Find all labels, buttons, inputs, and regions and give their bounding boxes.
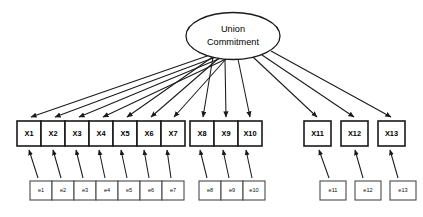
indicator-label-x4: X4	[96, 129, 106, 138]
indicator-label-x2: X2	[48, 129, 57, 138]
error-label-e8: e8	[207, 187, 213, 193]
loading-arrow-x9	[225, 59, 226, 117]
error-label-e2: e2	[60, 187, 66, 193]
loading-arrow-x10	[238, 59, 250, 117]
loading-arrow-x3	[79, 58, 221, 117]
error-arrow-e6	[144, 150, 149, 178]
latent-variable-union-commitment[interactable]: Union Commitment	[186, 13, 280, 60]
indicator-label-x5: X5	[120, 129, 129, 138]
error-label-e13: e13	[398, 187, 407, 193]
error-label-e5: e5	[126, 187, 132, 193]
indicator-group-1: X1 X2 X3 X4 X5 X6 X7	[17, 121, 185, 146]
factor-loading-arrows	[31, 51, 391, 117]
error-group-1: e1 e2 e3 e4 e5 e6 e7	[30, 181, 184, 200]
loading-arrow-x2	[55, 57, 216, 117]
latent-label-line1: Union	[221, 24, 245, 34]
error-label-e9: e9	[229, 187, 235, 193]
error-group-3: e11 e12 e13	[320, 181, 416, 200]
indicator-label-x1: X1	[24, 129, 33, 138]
indicator-label-x3: X3	[72, 129, 81, 138]
indicator-label-x10: X10	[243, 129, 256, 138]
loading-arrow-x13	[271, 51, 391, 117]
error-arrow-e11	[319, 150, 329, 178]
latent-label-line2: Commitment	[207, 37, 260, 47]
error-arrow-e2	[53, 150, 61, 178]
indicator-label-x8: X8	[197, 129, 206, 138]
error-arrow-e13	[390, 150, 398, 178]
indicator-label-x13: X13	[385, 129, 398, 138]
error-label-e1: e1	[38, 187, 44, 193]
loading-arrow-x8	[203, 57, 213, 117]
error-label-e11: e11	[329, 187, 338, 193]
indicator-label-x6: X6	[144, 129, 153, 138]
indicator-label-x11: X11	[311, 129, 324, 138]
error-arrow-e8	[200, 150, 207, 178]
indicator-label-x12: X12	[348, 129, 361, 138]
error-label-e6: e6	[148, 187, 154, 193]
indicator-label-x7: X7	[168, 129, 177, 138]
loading-arrow-x6	[151, 58, 219, 117]
sem-path-diagram: Union Commitment X1 X2 X3 X4 X5 X6 X7 X8…	[0, 0, 423, 217]
indicator-label-x9: X9	[221, 129, 230, 138]
latent-ellipse[interactable]	[186, 13, 280, 60]
error-label-e12: e12	[363, 187, 372, 193]
error-arrow-e10	[246, 150, 252, 178]
error-arrow-e9	[223, 150, 229, 178]
error-label-e4: e4	[104, 187, 110, 193]
error-label-e10: e10	[249, 187, 258, 193]
error-arrows	[29, 150, 398, 178]
loading-arrow-x7	[174, 59, 226, 117]
error-arrow-e5	[121, 150, 127, 178]
indicator-group-3: X11 X12 X13	[304, 121, 405, 146]
loading-arrow-x1	[31, 55, 210, 117]
error-group-2: e8 e9 e10	[199, 181, 265, 200]
loading-arrow-x12	[262, 55, 354, 117]
error-arrow-e12	[355, 150, 363, 178]
error-arrow-e1	[29, 150, 38, 178]
error-arrow-e7	[167, 150, 171, 178]
error-label-e3: e3	[82, 187, 88, 193]
loading-arrow-x11	[253, 57, 317, 117]
error-arrow-e4	[99, 150, 105, 178]
indicator-group-2: X8 X9 X10	[190, 121, 262, 146]
error-label-e7: e7	[170, 187, 176, 193]
error-arrow-e3	[76, 150, 83, 178]
